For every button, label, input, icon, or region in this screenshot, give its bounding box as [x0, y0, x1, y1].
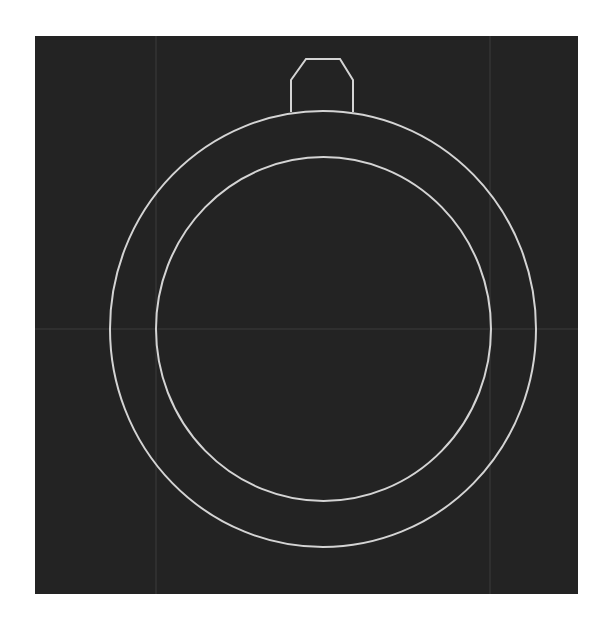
crown-knob	[291, 59, 353, 112]
wireframe-drawing	[0, 0, 610, 629]
grid-lines	[35, 36, 578, 594]
